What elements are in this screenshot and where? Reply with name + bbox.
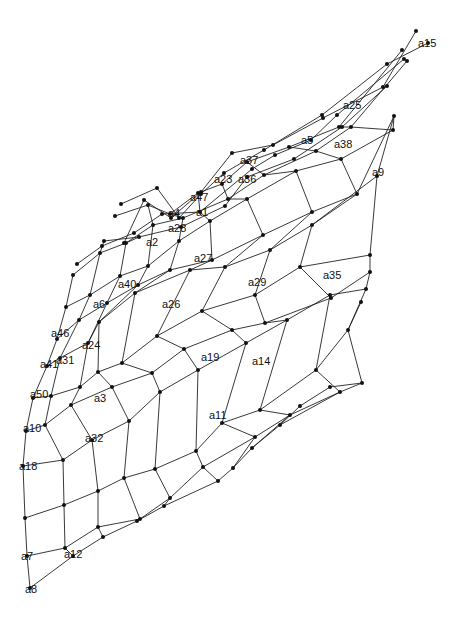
grid-node [391, 128, 395, 132]
grid-node [288, 413, 292, 417]
node-label: a36 [238, 173, 256, 185]
grid-row-line [26, 272, 370, 431]
grid-node [196, 368, 200, 372]
grid-node [119, 202, 123, 206]
grid-node [385, 84, 389, 88]
grid-node [258, 408, 262, 412]
node-label: a10 [23, 422, 41, 434]
grid-node [69, 403, 73, 407]
grid-node [230, 328, 234, 332]
grid-node [310, 210, 314, 214]
grid-node [101, 535, 105, 539]
grid-node [359, 300, 363, 304]
grid-row-line [27, 383, 362, 556]
grid-node [314, 368, 318, 372]
node-label: a18 [19, 460, 37, 472]
grid-node [75, 262, 79, 266]
node-label: a24 [82, 339, 100, 351]
grid-node [337, 125, 341, 129]
grid-node [355, 192, 359, 196]
node-label: a26 [162, 298, 180, 310]
grid-node [285, 318, 289, 322]
grid-node [310, 223, 314, 227]
node-labels: a15a25a5a38a9a37a23a36a47a4a1a28a2a27a40… [19, 37, 436, 595]
grid-node [349, 125, 353, 129]
node-label: a19 [201, 351, 219, 363]
grid-node [150, 371, 154, 375]
grid-column-line [122, 214, 183, 506]
grid-node [146, 264, 150, 268]
node-label: a15 [418, 37, 436, 49]
grid-node [381, 85, 385, 89]
grid-node [360, 381, 364, 385]
node-label: a1 [196, 206, 208, 218]
grid-column-line [98, 205, 153, 521]
grid-node [177, 239, 181, 243]
grid-node [105, 301, 109, 305]
grid-node [253, 293, 257, 297]
grid-node [98, 251, 102, 255]
grid-node [61, 458, 65, 462]
grid-node [71, 273, 75, 277]
grid-node [77, 318, 81, 322]
grid-node [292, 157, 296, 161]
grid-node [153, 467, 157, 471]
grid-node [223, 265, 227, 269]
grid-node [314, 149, 318, 153]
grid-node [294, 169, 298, 173]
grid-node [96, 489, 100, 493]
node-label: a38 [334, 138, 352, 150]
node-label: a31 [56, 354, 74, 366]
node-label: a8 [25, 583, 37, 595]
grid-node [335, 113, 339, 117]
grid-node [320, 113, 324, 117]
grid-node [151, 223, 155, 227]
grid-node [346, 328, 350, 332]
grid-node [338, 390, 342, 394]
grid-node [188, 268, 192, 272]
grid-node [122, 241, 126, 245]
grid-row-line [121, 43, 428, 218]
node-label: a47 [190, 191, 208, 203]
grid-node [226, 197, 230, 201]
grid-node [43, 423, 47, 427]
grid-node [278, 423, 282, 427]
grid-node [268, 248, 272, 252]
grid-node [110, 385, 114, 389]
grid-node [88, 293, 92, 297]
grid-column-line [202, 184, 263, 468]
grid-node [250, 446, 254, 450]
node-label: a23 [214, 173, 232, 185]
grid-node [231, 466, 235, 470]
node-label: a29 [248, 276, 266, 288]
grid-node [137, 235, 141, 239]
grid-row-line [33, 255, 370, 398]
grid-node [208, 219, 212, 223]
grid-node [155, 334, 159, 338]
grid-row-line [25, 302, 361, 518]
grid-node [97, 320, 101, 324]
grid-node [414, 29, 418, 33]
grid-node [339, 157, 343, 161]
grid-node [102, 239, 106, 243]
grid-node [271, 143, 275, 147]
node-label: a14 [252, 355, 270, 367]
grid-column-line [280, 147, 357, 425]
mesh-diagram: a15a25a5a38a9a37a23a36a47a4a1a28a2a27a40… [0, 0, 458, 618]
grid-node [78, 385, 82, 389]
node-label: a11 [209, 409, 227, 421]
grid-node [49, 394, 53, 398]
grid-node [142, 198, 146, 202]
grid-node [96, 370, 100, 374]
grid-node [168, 496, 172, 500]
grid-node [182, 347, 186, 351]
grid-node [138, 517, 142, 521]
grid-node [287, 145, 291, 149]
grid-node [132, 231, 136, 235]
node-label: a2 [146, 236, 158, 248]
grid-node [162, 504, 166, 508]
grid-node [368, 270, 372, 274]
grid-node [133, 291, 137, 295]
grid-node [364, 287, 368, 291]
node-label: a46 [51, 327, 69, 339]
